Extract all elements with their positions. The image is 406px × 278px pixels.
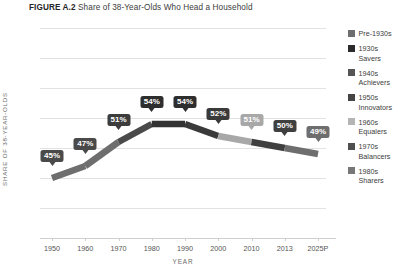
data-point-callout: 49% — [306, 126, 329, 138]
line-segment — [252, 142, 285, 148]
callout-pointer — [215, 120, 221, 124]
legend-item[interactable]: 1930s Savers — [348, 44, 406, 63]
legend-swatch-icon — [348, 94, 355, 101]
callout-pointer — [82, 150, 88, 154]
data-point-callout: 51% — [107, 114, 130, 126]
x-axis-tick-label: 2025P — [308, 244, 329, 253]
callout-pointer — [49, 162, 55, 166]
figure-container: FIGURE A.2 Share of 38-Year-Olds Who Hea… — [0, 0, 406, 278]
x-axis-tick-mark — [85, 238, 86, 241]
data-point-value: 45% — [40, 150, 63, 162]
callout-pointer — [149, 108, 155, 112]
x-axis-tick-mark — [285, 238, 286, 241]
legend-item[interactable]: 1960s Equalers — [348, 118, 406, 137]
x-axis-tick-label: 1990 — [177, 244, 193, 253]
x-axis-tick-mark — [152, 238, 153, 241]
data-point-value: 54% — [173, 96, 196, 108]
x-axis-tick-label: 2010 — [244, 244, 260, 253]
legend-item[interactable]: 1950s Innovators — [348, 93, 406, 112]
line-segment — [285, 148, 318, 154]
data-point-callout: 54% — [173, 96, 196, 108]
line-segment — [119, 124, 152, 142]
legend-item-label: 1980s Sharers — [359, 167, 384, 186]
legend-item-label: Pre-1930s — [359, 29, 392, 39]
x-axis-tick-mark — [318, 238, 319, 241]
callout-pointer — [248, 126, 254, 130]
legend-item-label: 1940s Achievers — [359, 69, 391, 88]
x-axis-tick-label: 1970 — [111, 244, 127, 253]
legend-swatch-icon — [348, 45, 355, 52]
legend-swatch-icon — [348, 118, 355, 125]
legend-item[interactable]: 1980s Sharers — [348, 167, 406, 186]
line-segment — [52, 166, 85, 178]
data-point-value: 51% — [107, 114, 130, 126]
data-point-callout: 50% — [273, 120, 296, 132]
callout-pointer — [282, 132, 288, 136]
x-axis-tick-mark — [252, 238, 253, 241]
line-series — [0, 0, 406, 278]
data-point-value: 50% — [273, 120, 296, 132]
legend-item-label: 1930s Savers — [359, 44, 381, 63]
x-axis-tick-mark — [218, 238, 219, 241]
legend-item-label: 1950s Innovators — [359, 93, 393, 112]
data-point-value: 54% — [140, 96, 163, 108]
data-point-callout: 52% — [207, 108, 230, 120]
data-point-value: 52% — [207, 108, 230, 120]
x-axis-tick-label: 1960 — [77, 244, 93, 253]
data-point-value: 47% — [74, 138, 97, 150]
x-axis-tick-mark — [119, 238, 120, 241]
callout-pointer — [315, 138, 321, 142]
data-point-callout: 54% — [140, 96, 163, 108]
data-point-value: 51% — [240, 114, 263, 126]
x-axis-tick-label: 2013 — [277, 244, 293, 253]
data-point-value: 49% — [306, 126, 329, 138]
legend-swatch-icon — [348, 69, 355, 76]
x-axis-tick-label: 1950 — [44, 244, 60, 253]
callout-pointer — [115, 126, 121, 130]
legend-item-label: 1970s Balancers — [359, 142, 391, 161]
legend-swatch-icon — [348, 167, 355, 174]
line-segment — [218, 136, 251, 142]
x-axis-tick-label: 2000 — [210, 244, 226, 253]
line-segment — [185, 124, 218, 136]
legend-item-label: 1960s Equalers — [359, 118, 387, 137]
data-point-callout: 47% — [74, 138, 97, 150]
data-point-callout: 51% — [240, 114, 263, 126]
legend-swatch-icon — [348, 143, 355, 150]
legend-item[interactable]: 1940s Achievers — [348, 69, 406, 88]
callout-pointer — [182, 108, 188, 112]
legend-item[interactable]: 1970s Balancers — [348, 142, 406, 161]
legend: Pre-1930s1930s Savers1940s Achievers1950… — [348, 29, 406, 191]
x-axis-tick-label: 1980 — [144, 244, 160, 253]
legend-swatch-icon — [348, 30, 355, 37]
data-point-callout: 45% — [40, 150, 63, 162]
x-axis-tick-mark — [185, 238, 186, 241]
x-axis-tick-mark — [52, 238, 53, 241]
legend-item[interactable]: Pre-1930s — [348, 29, 406, 39]
